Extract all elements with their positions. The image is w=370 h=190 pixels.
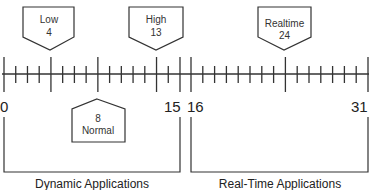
callout-low-value: 4	[46, 27, 52, 38]
callout-normal-value: 8	[95, 113, 101, 124]
endpoint-label-16: 16	[187, 98, 204, 115]
callout-high-value: 13	[150, 27, 162, 38]
callout-high: High 13	[129, 7, 183, 50]
endpoint-label-15: 15	[164, 98, 181, 115]
callout-high-label: High	[146, 14, 167, 25]
endpoint-label-0: 0	[0, 98, 8, 115]
callout-low: Low 4	[23, 7, 74, 50]
group-label-dynamic: Dynamic Applications	[35, 177, 149, 190]
callout-normal-label: Normal	[82, 125, 114, 136]
endpoint-label-31: 31	[351, 98, 368, 115]
callout-realtime-label: Realtime	[265, 18, 305, 29]
callout-realtime-value: 24	[279, 30, 291, 41]
priority-diagram: Low 4 High 13 Realtime 24 8 Normal 0 15 …	[0, 0, 370, 190]
callout-realtime: Realtime 24	[258, 7, 311, 50]
callout-low-label: Low	[40, 14, 59, 25]
callout-normal: 8 Normal	[72, 99, 125, 142]
bracket-realtime	[191, 117, 368, 172]
group-label-realtime: Real-Time Applications	[219, 177, 341, 190]
